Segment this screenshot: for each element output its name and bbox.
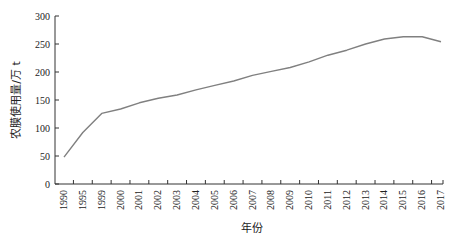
x-tick-label: 2003 — [171, 190, 182, 210]
x-axis: 1990199519992000200120022003200420052006… — [55, 180, 446, 210]
y-axis: 050100150200250300 — [35, 11, 59, 190]
x-tick-label: 2004 — [190, 190, 201, 210]
x-tick-label: 2011 — [322, 190, 333, 210]
x-tick-label: 2016 — [416, 190, 427, 210]
y-tick-label: 250 — [35, 39, 50, 50]
x-tick-label: 2002 — [152, 190, 163, 210]
data-series — [64, 37, 441, 157]
x-tick-label: 2013 — [360, 190, 371, 210]
x-tick-label: 2012 — [341, 190, 352, 210]
x-tick-label: 2008 — [265, 190, 276, 210]
x-tick-label: 2015 — [397, 190, 408, 210]
line-chart: 050100150200250300 199019951999200020012… — [0, 0, 460, 243]
x-tick-label: 2017 — [435, 190, 446, 210]
y-tick-label: 50 — [40, 151, 50, 162]
x-tick-label: 2000 — [115, 190, 126, 210]
x-tick-label: 2007 — [247, 190, 258, 210]
x-tick-label: 2005 — [209, 190, 220, 210]
x-tick-label: 1999 — [96, 190, 107, 210]
x-tick-label: 1995 — [77, 190, 88, 210]
y-tick-label: 150 — [35, 95, 50, 106]
x-tick-label: 2010 — [303, 190, 314, 210]
x-tick-label: 2009 — [284, 190, 295, 210]
y-tick-label: 300 — [35, 11, 50, 22]
series-line — [64, 37, 441, 157]
x-tick-label: 2014 — [378, 190, 389, 210]
x-tick-label: 2001 — [133, 190, 144, 210]
y-tick-label: 100 — [35, 123, 50, 134]
y-tick-label: 0 — [45, 179, 50, 190]
x-tick-label: 2006 — [228, 190, 239, 210]
y-tick-label: 200 — [35, 67, 50, 78]
x-axis-title: 年份 — [241, 221, 263, 235]
x-tick-label: 1990 — [58, 190, 69, 210]
y-axis-title: 农膜使用量/万 t — [9, 61, 23, 139]
